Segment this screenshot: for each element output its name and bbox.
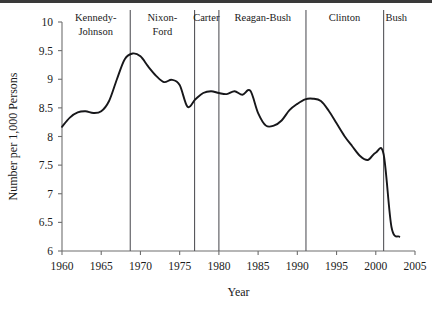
- y-tick-label: 6.5: [39, 216, 54, 228]
- y-tick-label: 9.5: [39, 45, 54, 57]
- x-axis-title: Year: [227, 285, 249, 299]
- x-tick-label: 2000: [364, 260, 387, 272]
- x-tick-label: 1995: [325, 260, 348, 272]
- y-tick-label: 7.5: [39, 159, 54, 171]
- era-label: Carter: [193, 12, 220, 23]
- x-tick-label: 1970: [129, 260, 152, 272]
- y-tick-label: 10: [42, 16, 54, 28]
- y-tick-label: 7: [47, 188, 53, 200]
- x-tick-label: 1960: [51, 260, 74, 272]
- era-label: Bush: [385, 12, 407, 23]
- era-label: Kennedy-: [75, 12, 117, 23]
- y-axis-title: Number per 1,000 Persons: [6, 72, 20, 200]
- era-label-line2: Ford: [152, 26, 173, 37]
- era-label: Clinton: [329, 12, 361, 23]
- y-tick-label: 8.5: [39, 102, 54, 114]
- chart-figure: 66.577.588.599.5101960196519701975198019…: [0, 0, 432, 318]
- era-label: Nixon-: [148, 12, 178, 23]
- x-tick-label: 1985: [247, 260, 270, 272]
- era-label: Reagan-Bush: [235, 12, 292, 23]
- x-tick-label: 1975: [168, 260, 191, 272]
- y-tick-label: 6: [47, 245, 53, 257]
- x-tick-label: 2005: [404, 260, 427, 272]
- y-tick-label: 8: [47, 131, 53, 143]
- x-tick-label: 1965: [90, 260, 113, 272]
- era-label-line2: Johnson: [79, 26, 114, 37]
- x-tick-label: 1980: [207, 260, 230, 272]
- y-tick-label: 9: [47, 73, 53, 85]
- data-series-line: [62, 53, 399, 236]
- x-tick-label: 1990: [286, 260, 309, 272]
- line-chart-svg: 66.577.588.599.5101960196519701975198019…: [0, 0, 432, 318]
